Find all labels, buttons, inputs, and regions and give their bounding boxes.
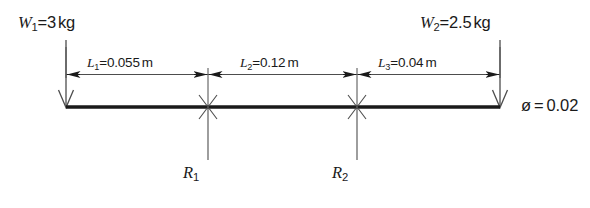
reaction-subscript-r2: 2	[342, 171, 348, 183]
dimension-value-l2: 0.12	[260, 55, 285, 70]
reaction-symbol-r1: R	[183, 163, 193, 182]
beam-diagram: W1=3kg W2=2.5kg L1=0.055m L2=0.12m L3=0.…	[0, 0, 590, 208]
load-equals-w2: =	[440, 13, 449, 31]
load-unit-w2: kg	[471, 13, 490, 31]
load-symbol-w1: W	[18, 13, 32, 32]
diameter-note: ø=0.02	[521, 97, 578, 114]
load-label-w1: W1=3kg	[18, 14, 75, 33]
dimension-label-l3: L3=0.04m	[378, 56, 436, 72]
dimension-value-l3: 0.04	[398, 55, 423, 70]
dimension-equals-l1: =	[99, 55, 107, 70]
dimension-equals-l2: =	[252, 55, 260, 70]
dimension-label-l1: L1=0.055m	[87, 56, 153, 72]
dimension-unit-l1: m	[140, 55, 153, 70]
diagram-canvas	[0, 0, 590, 208]
load-unit-w1: kg	[56, 13, 75, 31]
reaction-label-r1: R1	[183, 164, 199, 183]
dimension-unit-l2: m	[285, 55, 298, 70]
reaction-label-r2: R2	[332, 164, 348, 183]
diameter-symbol: ø	[521, 96, 531, 114]
load-value-w1: 3	[47, 13, 56, 31]
load-label-w2: W2=2.5kg	[420, 14, 490, 33]
diameter-equals: =	[531, 96, 547, 114]
load-symbol-w2: W	[420, 13, 434, 32]
dimension-equals-l3: =	[390, 55, 398, 70]
dimension-unit-l3: m	[423, 55, 436, 70]
reaction-subscript-r1: 1	[193, 171, 199, 183]
load-value-w2: 2.5	[449, 13, 471, 31]
diameter-value: 0.02	[547, 96, 579, 114]
load-equals-w1: =	[38, 13, 47, 31]
dimension-value-l1: 0.055	[107, 55, 140, 70]
dimension-label-l2: L2=0.12m	[240, 56, 298, 72]
reaction-symbol-r2: R	[332, 163, 342, 182]
